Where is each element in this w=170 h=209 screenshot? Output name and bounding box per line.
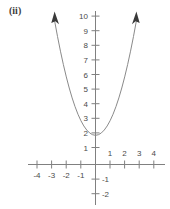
y-tick-label: 10 [79,12,88,21]
y-tick-label: 5 [84,85,89,94]
y-tick-label: -1 [102,175,110,184]
x-tick-label: -1 [77,171,85,180]
parabola-plot: 10 9 8 7 6 5 4 3 2 1 -1 -2 -4 -3 -2 -1 1… [0,0,170,209]
y-tick-label: 2 [84,129,89,138]
y-tick-label: 6 [84,71,89,80]
x-tick-label: 2 [122,149,127,158]
y-tick-label: 3 [84,114,89,123]
y-tick-label: -2 [102,190,110,199]
x-tick-label: -3 [48,171,56,180]
y-tick-label: 8 [84,41,89,50]
y-tick-label: 9 [84,27,89,36]
figure-container: (ii) [0,0,170,209]
x-tick-label: 1 [108,149,113,158]
y-tick-label: 7 [84,56,89,65]
y-tick-label: 4 [84,100,89,109]
y-tick-label: 1 [84,144,89,153]
x-tick-label: 3 [137,149,142,158]
x-tick-label: -4 [33,171,41,180]
x-tick-label: -2 [63,171,71,180]
part-label: (ii) [9,5,21,17]
x-tick-label: 4 [152,149,157,158]
